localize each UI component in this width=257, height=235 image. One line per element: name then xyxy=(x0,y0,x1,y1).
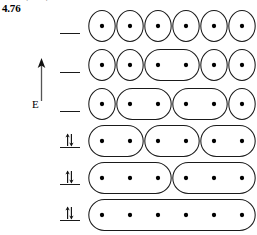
orbital-lobe-6-centre xyxy=(89,200,255,231)
atom-centre-dot xyxy=(100,139,104,143)
atom-centre-dot xyxy=(100,176,104,180)
atom-centre-dot xyxy=(212,176,216,180)
orbital-row-5 xyxy=(88,160,256,196)
orbital-lobe-2-centre xyxy=(117,89,171,120)
energy-level-3 xyxy=(60,94,80,116)
orbital-row-6 xyxy=(88,197,256,233)
electron-pair xyxy=(63,170,77,184)
atom-centre-dot xyxy=(212,24,216,28)
orbital-row-3 xyxy=(88,86,256,122)
energy-level-5 xyxy=(60,167,80,189)
orbital-lobe-2-centre xyxy=(145,126,199,157)
energy-level-4 xyxy=(60,130,80,152)
atom-centre-dot xyxy=(212,213,216,217)
up-down-arrow-pair-icon xyxy=(63,206,77,220)
atom-centre-dot xyxy=(184,213,188,217)
orbital-lobe-2-centre xyxy=(201,126,255,157)
atom-centre-dot xyxy=(100,63,104,67)
atom-centre-dot xyxy=(100,102,104,106)
atom-centre-dot xyxy=(100,213,104,217)
energy-axis: E xyxy=(28,58,50,114)
energy-level-bar xyxy=(60,184,80,185)
figure-number-label: 4.76 xyxy=(2,3,20,14)
atom-centre-dot xyxy=(156,24,160,28)
atom-centre-dot xyxy=(128,139,132,143)
energy-level-bar xyxy=(60,72,80,73)
atom-centre-dot xyxy=(184,24,188,28)
orbital-row-4 xyxy=(88,123,256,159)
orbital-lobe-2-centre xyxy=(89,126,143,157)
atom-centre-dot xyxy=(240,24,244,28)
atom-centre-dot xyxy=(184,139,188,143)
electron-pair xyxy=(63,206,77,220)
energy-axis-label: E xyxy=(32,98,39,110)
up-arrow-icon xyxy=(36,58,47,102)
atom-centre-dot xyxy=(240,213,244,217)
atom-centre-dot xyxy=(240,63,244,67)
atom-centre-dot xyxy=(100,24,104,28)
orbital-lobe-2-centre xyxy=(173,89,227,120)
atom-centre-dot xyxy=(128,102,132,106)
atom-centre-dot xyxy=(156,139,160,143)
atom-centre-dot xyxy=(212,139,216,143)
energy-level-bar xyxy=(60,111,80,112)
clipped-header-text: g g xyxy=(26,0,146,1)
electron-pair xyxy=(63,133,77,147)
atom-centre-dot xyxy=(128,24,132,28)
energy-level-2 xyxy=(60,55,80,77)
atom-centre-dot xyxy=(156,63,160,67)
atom-centre-dot xyxy=(156,213,160,217)
energy-level-1 xyxy=(60,16,80,38)
atom-centre-dot xyxy=(212,102,216,106)
energy-level-bar xyxy=(60,33,80,34)
atom-centre-dot xyxy=(184,63,188,67)
atom-centre-dot xyxy=(128,213,132,217)
atom-centre-dot xyxy=(128,63,132,67)
atom-centre-dot xyxy=(184,176,188,180)
orbital-row-2 xyxy=(88,47,256,83)
energy-level-6 xyxy=(60,203,80,225)
orbital-lobe-2-centre xyxy=(145,50,199,81)
energy-level-bar xyxy=(60,220,80,221)
up-down-arrow-pair-icon xyxy=(63,133,77,147)
atom-centre-dot xyxy=(240,176,244,180)
orbital-energy-figure: g g 4.76 E xyxy=(0,0,257,235)
orbital-row-1 xyxy=(88,8,256,44)
atom-centre-dot xyxy=(240,102,244,106)
up-down-arrow-pair-icon xyxy=(63,170,77,184)
energy-level-bar xyxy=(60,147,80,148)
atom-centre-dot xyxy=(128,176,132,180)
atom-centre-dot xyxy=(240,139,244,143)
atom-centre-dot xyxy=(184,102,188,106)
atom-centre-dot xyxy=(156,176,160,180)
atom-centre-dot xyxy=(212,63,216,67)
atom-centre-dot xyxy=(156,102,160,106)
